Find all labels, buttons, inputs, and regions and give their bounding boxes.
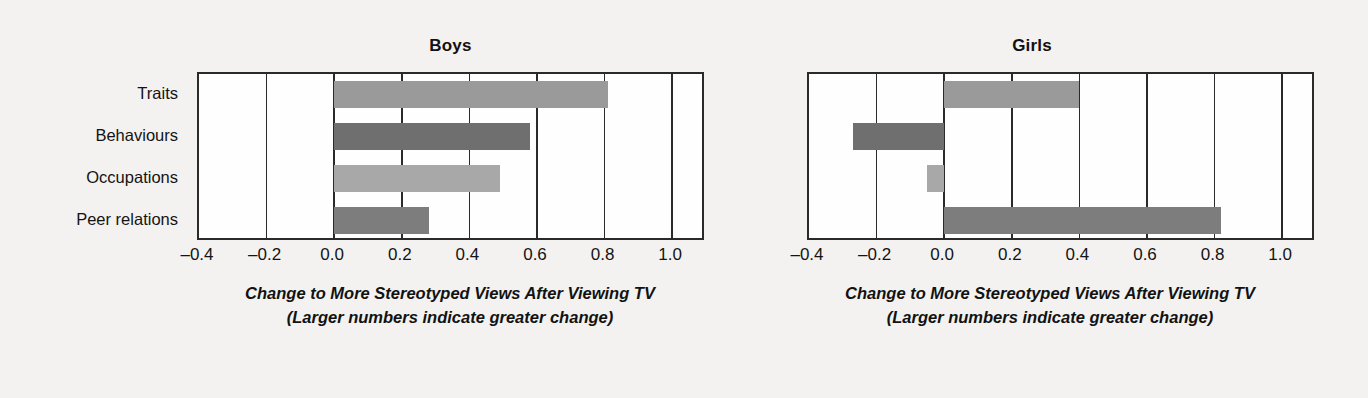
x-tick-label: –0.4 <box>790 245 823 265</box>
caption-line-2: (Larger numbers indicate greater change) <box>770 306 1330 330</box>
bar-row <box>199 74 702 116</box>
x-tick-label: 0.6 <box>1133 245 1157 265</box>
x-tick-label: 0.4 <box>1066 245 1090 265</box>
category-axis-labels-boys: Traits Behaviours Occupations Peer relat… <box>0 72 188 240</box>
x-tick-label: 0.2 <box>388 245 412 265</box>
bar-occupations <box>927 165 944 192</box>
bar-peer-relations <box>334 207 429 234</box>
bar-row <box>199 116 702 158</box>
bar-behaviours <box>853 123 944 150</box>
bar-behaviours <box>334 123 530 150</box>
x-tick-label: –0.2 <box>858 245 891 265</box>
bar-row <box>809 200 1312 242</box>
bar-row <box>809 116 1312 158</box>
x-tick-label: 0.4 <box>456 245 480 265</box>
x-axis-ticks-boys: –0.4–0.20.00.20.40.60.81.0 <box>197 245 704 271</box>
x-tick-label: 0.2 <box>998 245 1022 265</box>
x-tick-label: 0.8 <box>591 245 615 265</box>
caption-line-1: Change to More Stereotyped Views After V… <box>770 282 1330 306</box>
bar-traits <box>334 81 608 108</box>
x-axis-caption-boys: Change to More Stereotyped Views After V… <box>170 282 730 330</box>
bar-row <box>199 158 702 200</box>
bar-row <box>809 74 1312 116</box>
x-tick-label: 0.0 <box>320 245 344 265</box>
plot-area-boys <box>197 72 704 240</box>
x-tick-label: 0.6 <box>523 245 547 265</box>
x-tick-label: 1.0 <box>658 245 682 265</box>
bar-traits <box>944 81 1079 108</box>
x-tick-label: –0.4 <box>180 245 213 265</box>
panel-title-boys: Boys <box>197 36 704 56</box>
bar-series-girls <box>809 74 1312 238</box>
x-tick-label: –0.2 <box>248 245 281 265</box>
x-tick-label: 0.0 <box>930 245 954 265</box>
caption-line-1: Change to More Stereotyped Views After V… <box>170 282 730 306</box>
x-tick-label: 1.0 <box>1268 245 1292 265</box>
category-label-occupations: Occupations <box>0 156 188 198</box>
category-label-peer-relations: Peer relations <box>0 198 188 240</box>
x-tick-label: 0.8 <box>1201 245 1225 265</box>
x-axis-ticks-girls: –0.4–0.20.00.20.40.60.81.0 <box>807 245 1314 271</box>
panel-boys: Boys Traits Behaviours Occupations Peer … <box>0 0 700 398</box>
bar-row <box>809 158 1312 200</box>
bar-series-boys <box>199 74 702 238</box>
x-axis-caption-girls: Change to More Stereotyped Views After V… <box>770 282 1330 330</box>
caption-line-2: (Larger numbers indicate greater change) <box>170 306 730 330</box>
panel-girls: Girls –0.4–0.20.00.20.40.60.81.0 Change … <box>690 0 1368 398</box>
bar-occupations <box>334 165 500 192</box>
figure: Boys Traits Behaviours Occupations Peer … <box>0 0 1368 398</box>
bar-row <box>199 200 702 242</box>
panel-title-girls: Girls <box>807 36 1257 56</box>
plot-area-girls <box>807 72 1314 240</box>
bar-peer-relations <box>944 207 1221 234</box>
category-label-traits: Traits <box>0 72 188 114</box>
category-label-behaviours: Behaviours <box>0 114 188 156</box>
